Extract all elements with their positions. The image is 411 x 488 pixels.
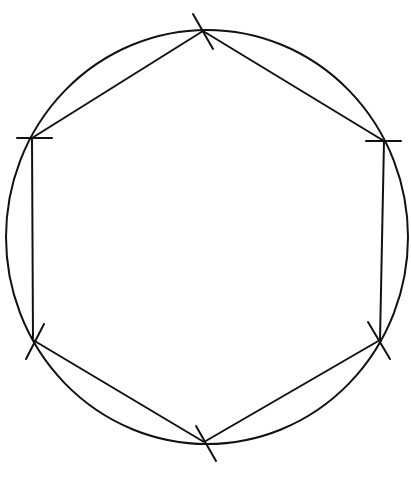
circumscribed-circle bbox=[6, 30, 408, 444]
inscribed-hexagon bbox=[32, 31, 384, 442]
tick-mark-top bbox=[193, 14, 213, 49]
hexagon-in-circle-diagram bbox=[0, 0, 411, 488]
